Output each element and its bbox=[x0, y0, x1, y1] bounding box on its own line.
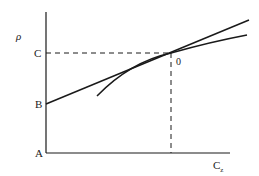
tangent-line bbox=[46, 20, 249, 104]
point-label-origin: 0 bbox=[176, 57, 181, 67]
y-axis-label: ρ bbox=[16, 31, 21, 42]
x-axis-label: Cz bbox=[213, 160, 223, 174]
point-label-b: B bbox=[35, 99, 42, 110]
point-label-c: C bbox=[34, 48, 41, 59]
point-label-a: A bbox=[35, 148, 43, 159]
x-axis-label-subscript: z bbox=[220, 166, 223, 174]
curve bbox=[97, 35, 247, 96]
